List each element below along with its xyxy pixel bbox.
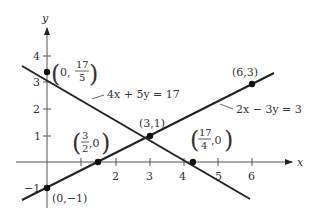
point-6-3 bbox=[249, 81, 255, 87]
svg-text:0,: 0, bbox=[60, 66, 71, 79]
svg-text:(: ( bbox=[72, 129, 81, 157]
svg-text:17: 17 bbox=[199, 127, 212, 138]
y-tick-1: 1 bbox=[34, 130, 41, 143]
svg-text:(: ( bbox=[190, 126, 199, 154]
graph-canvas: x y 2 3 4 5 6 4 3 2 1 −1 4x + 5y = 17 2x… bbox=[0, 0, 316, 217]
svg-text:5: 5 bbox=[79, 72, 85, 83]
point-3-2-0 bbox=[95, 159, 101, 165]
label-0-neg1: (0,−1) bbox=[52, 192, 87, 205]
point-0-17-5 bbox=[44, 69, 50, 75]
svg-text:(: ( bbox=[51, 60, 60, 88]
y-tick-4: 4 bbox=[33, 50, 40, 63]
equation-label-1: 4x + 5y = 17 bbox=[107, 88, 180, 101]
point-0-neg1 bbox=[44, 185, 50, 191]
svg-text:4: 4 bbox=[201, 140, 207, 151]
label-6-3: (6,3) bbox=[232, 66, 258, 79]
leader-line-2 bbox=[220, 104, 233, 109]
svg-text:3: 3 bbox=[82, 130, 88, 141]
label-17-4-0: ( 17 4 ,0 ) bbox=[190, 126, 233, 154]
y-tick-3: 3 bbox=[33, 76, 40, 89]
equation-label-2: 2x − 3y = 3 bbox=[236, 103, 302, 116]
x-tick-3: 3 bbox=[146, 170, 153, 183]
svg-text:17: 17 bbox=[76, 59, 89, 70]
y-axis-label: y bbox=[41, 12, 49, 25]
label-0-17-5: ( 0, 17 5 ) bbox=[51, 59, 98, 88]
label-3-1: (3,1) bbox=[139, 117, 165, 130]
x-axis-label: x bbox=[297, 156, 304, 169]
svg-text:): ) bbox=[89, 60, 98, 88]
svg-text:2: 2 bbox=[82, 143, 88, 154]
y-tick-2: 2 bbox=[33, 103, 40, 116]
x-tick-6: 6 bbox=[248, 170, 255, 183]
x-tick-2: 2 bbox=[112, 170, 119, 183]
svg-text:,0: ,0 bbox=[89, 137, 100, 150]
svg-text:,0: ,0 bbox=[211, 134, 222, 147]
point-17-4-0 bbox=[190, 159, 196, 165]
svg-text:): ) bbox=[101, 129, 110, 157]
leader-line-1 bbox=[92, 95, 104, 99]
point-3-1 bbox=[147, 133, 153, 139]
label-3-2-0: ( 3 2 ,0 ) bbox=[72, 129, 110, 157]
svg-text:): ) bbox=[224, 126, 233, 154]
x-tick-4: 4 bbox=[179, 170, 186, 183]
